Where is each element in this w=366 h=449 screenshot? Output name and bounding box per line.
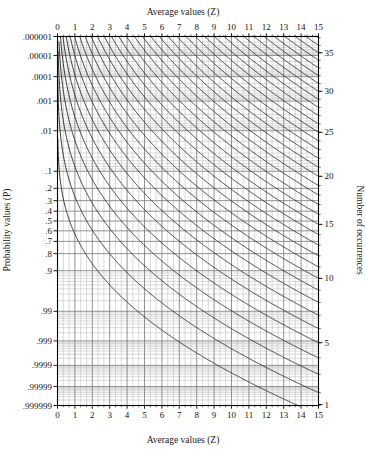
y-tick-label-left: .9999: [32, 360, 53, 370]
y-tick-label-right: 25: [325, 127, 335, 137]
y-tick-label-right: 5: [325, 338, 330, 348]
y-tick-label-left: .99: [41, 306, 53, 316]
x-tick-label-bottom: 11: [245, 410, 254, 420]
y-tick-label-left: .99999: [27, 382, 52, 392]
left-axis-title: Probability values (P): [2, 189, 13, 272]
y-tick-label-left: .5: [45, 216, 52, 226]
x-tick-label-bottom: 9: [212, 410, 217, 420]
y-tick-label-left: .001: [36, 96, 52, 106]
y-tick-label-left: .9: [45, 266, 52, 276]
x-tick-label-top: 15: [314, 22, 324, 32]
x-tick-label-top: 9: [212, 22, 217, 32]
x-tick-label-top: 8: [194, 22, 199, 32]
x-tick-label-top: 13: [279, 22, 289, 32]
y-tick-label-left: .000001: [23, 32, 52, 42]
bottom-axis-title: Average values (Z): [147, 435, 220, 446]
x-tick-label-bottom: 5: [142, 410, 147, 420]
chart-background: [0, 0, 366, 449]
x-tick-label-top: 6: [160, 22, 165, 32]
x-tick-label-top: 2: [90, 22, 95, 32]
x-tick-label-top: 1: [73, 22, 78, 32]
top-axis-title: Average values (Z): [147, 7, 220, 18]
x-tick-label-bottom: 13: [279, 410, 289, 420]
x-tick-label-bottom: 7: [177, 410, 182, 420]
x-tick-label-top: 7: [177, 22, 182, 32]
y-tick-label-left: .8: [45, 249, 52, 259]
y-tick-label-left: .0001: [32, 72, 52, 82]
y-tick-label-right: 30: [325, 86, 335, 96]
y-tick-label-left: .7: [45, 236, 52, 246]
x-tick-label-top: 4: [125, 22, 130, 32]
y-tick-label-left: .00001: [27, 51, 52, 61]
x-tick-label-bottom: 6: [160, 410, 165, 420]
y-tick-label-left: .999999: [23, 401, 53, 411]
poisson-probability-chart: Average values (Z) Average values (Z) Pr…: [0, 0, 366, 449]
x-tick-label-bottom: 2: [90, 410, 95, 420]
x-tick-label-top: 3: [107, 22, 112, 32]
y-tick-label-left: .2: [45, 183, 52, 193]
y-tick-label-right: 1: [325, 400, 330, 410]
y-tick-label-left: .4: [45, 206, 52, 216]
x-tick-label-bottom: 1: [73, 410, 78, 420]
y-tick-label-left: .01: [41, 126, 52, 136]
x-tick-label-bottom: 14: [297, 410, 307, 420]
y-tick-label-left: .6: [45, 226, 52, 236]
y-tick-label-left: .999: [36, 336, 52, 346]
y-tick-label-right: 20: [325, 171, 335, 181]
y-tick-label-right: 10: [325, 273, 335, 283]
x-tick-label-bottom: 3: [107, 410, 112, 420]
x-tick-label-bottom: 10: [227, 410, 237, 420]
x-tick-label-top: 11: [245, 22, 254, 32]
x-tick-label-top: 14: [297, 22, 307, 32]
x-tick-label-top: 0: [55, 22, 60, 32]
y-tick-label-left: .3: [45, 196, 52, 206]
x-tick-label-bottom: 8: [194, 410, 199, 420]
y-tick-label-right: 35: [325, 48, 335, 58]
x-tick-label-top: 10: [227, 22, 237, 32]
chart-canvas: Average values (Z) Average values (Z) Pr…: [0, 0, 366, 449]
y-tick-label-left: .1: [45, 166, 52, 176]
x-tick-label-top: 12: [262, 22, 271, 32]
x-tick-label-bottom: 0: [55, 410, 60, 420]
y-tick-label-right: 15: [325, 219, 335, 229]
x-tick-label-bottom: 12: [262, 410, 271, 420]
x-tick-label-top: 5: [142, 22, 147, 32]
x-tick-label-bottom: 15: [314, 410, 324, 420]
x-tick-label-bottom: 4: [125, 410, 130, 420]
right-axis-title: Number of occurrences: [355, 185, 365, 274]
